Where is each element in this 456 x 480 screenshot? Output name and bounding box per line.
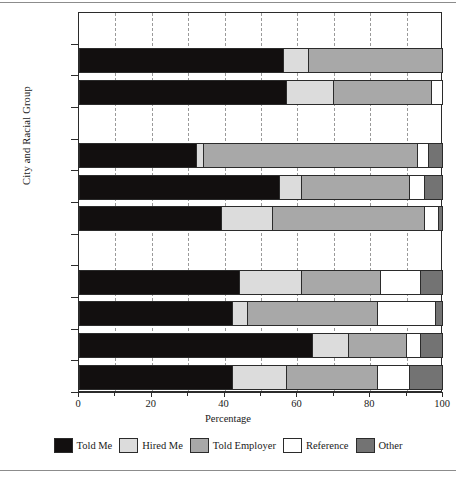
- x-tick: [296, 392, 297, 397]
- bar-segment-other[interactable]: [420, 271, 442, 294]
- bar-segment-told-employer[interactable]: [333, 81, 431, 104]
- legend-swatch: [356, 438, 375, 453]
- bar-row: [79, 48, 441, 73]
- bar-segment-other[interactable]: [428, 144, 442, 167]
- legend-label: Other: [379, 440, 403, 451]
- legend-item[interactable]: Told Me: [54, 438, 113, 453]
- bar-segment-hired-me[interactable]: [221, 207, 272, 230]
- bar-segment-told-me[interactable]: [80, 207, 221, 230]
- x-tick-label: 60: [276, 398, 316, 409]
- bar-segment-told-me[interactable]: [80, 49, 283, 72]
- legend-item[interactable]: Other: [356, 438, 403, 453]
- legend-swatch: [54, 438, 73, 453]
- x-tick-label: 20: [131, 398, 171, 409]
- bar-segment-told-me[interactable]: [80, 334, 312, 357]
- bar-row: [79, 143, 441, 168]
- bar-row: [79, 80, 441, 105]
- x-tick: [151, 392, 152, 397]
- legend-swatch: [283, 438, 302, 453]
- x-tick-label: 0: [58, 398, 98, 409]
- legend-label: Told Employer: [213, 440, 276, 451]
- bar-segment-told-employer[interactable]: [203, 144, 417, 167]
- legend-label: Reference: [306, 440, 349, 451]
- bar-segment-reference[interactable]: [377, 302, 435, 325]
- bar-segment-told-employer[interactable]: [247, 302, 377, 325]
- bar-segment-told-me[interactable]: [80, 176, 279, 199]
- y-tick: [71, 329, 79, 330]
- bar-row: [79, 301, 441, 326]
- y-axis-title: City and Racial Group: [21, 56, 32, 216]
- bottom-rule: [0, 470, 456, 471]
- bar-segment-hired-me[interactable]: [232, 302, 246, 325]
- bar-segment-told-me[interactable]: [80, 144, 196, 167]
- bar-segment-other[interactable]: [409, 366, 442, 389]
- bar-segment-reference[interactable]: [380, 271, 420, 294]
- bar-segment-told-me[interactable]: [80, 302, 232, 325]
- legend-label: Hired Me: [142, 440, 183, 451]
- bar-segment-told-me[interactable]: [80, 271, 239, 294]
- stacked-bar[interactable]: [79, 48, 443, 73]
- bar-segment-reference[interactable]: [424, 207, 438, 230]
- x-tick-minor: [406, 392, 407, 396]
- x-tick-minor: [187, 392, 188, 396]
- bar-segment-hired-me[interactable]: [239, 271, 301, 294]
- x-tick-minor: [260, 392, 261, 396]
- y-tick: [71, 297, 79, 298]
- bar-segment-told-me[interactable]: [80, 366, 232, 389]
- stacked-bar[interactable]: [79, 365, 443, 390]
- legend-item[interactable]: Told Employer: [190, 438, 276, 453]
- legend: Told MeHired MeTold EmployerReferenceOth…: [0, 438, 456, 453]
- bar-segment-other[interactable]: [420, 334, 442, 357]
- bar-row: [79, 206, 441, 231]
- bar-segment-told-employer[interactable]: [301, 271, 381, 294]
- bar-segment-other[interactable]: [435, 302, 442, 325]
- bar-segment-reference[interactable]: [377, 366, 410, 389]
- bar-row: [79, 333, 441, 358]
- stacked-bar[interactable]: [79, 143, 443, 168]
- plot-area: [78, 12, 442, 392]
- bar-segment-hired-me[interactable]: [286, 81, 333, 104]
- bar-segment-hired-me[interactable]: [312, 334, 348, 357]
- bar-segment-told-employer[interactable]: [272, 207, 424, 230]
- x-tick: [224, 392, 225, 397]
- x-tick-minor: [114, 392, 115, 396]
- bar-segment-reference[interactable]: [406, 334, 420, 357]
- bar-rows: [79, 13, 441, 391]
- bar-segment-told-employer[interactable]: [308, 49, 442, 72]
- bar-segment-reference[interactable]: [409, 176, 423, 199]
- y-tick: [71, 139, 79, 140]
- stacked-bar[interactable]: [79, 333, 443, 358]
- legend-item[interactable]: Hired Me: [119, 438, 183, 453]
- bar-segment-other[interactable]: [424, 176, 442, 199]
- figure: City and Racial Group AtlantaBlackNon-Hi…: [0, 0, 456, 480]
- legend-item[interactable]: Reference: [283, 438, 349, 453]
- bar-segment-reference[interactable]: [431, 81, 442, 104]
- bar-row: [79, 270, 441, 295]
- legend-swatch: [119, 438, 138, 453]
- bar-segment-reference[interactable]: [417, 144, 428, 167]
- x-tick-label: 100: [422, 398, 456, 409]
- y-tick: [71, 75, 79, 76]
- y-tick: [71, 170, 79, 171]
- bar-segment-hired-me[interactable]: [283, 49, 308, 72]
- top-rule: [0, 2, 456, 3]
- stacked-bar[interactable]: [79, 270, 443, 295]
- stacked-bar[interactable]: [79, 206, 443, 231]
- x-tick: [442, 392, 443, 397]
- bar-segment-hired-me[interactable]: [279, 176, 301, 199]
- stacked-bar[interactable]: [79, 175, 443, 200]
- stacked-bar[interactable]: [79, 301, 443, 326]
- bar-segment-hired-me[interactable]: [196, 144, 203, 167]
- bar-row: [79, 365, 441, 390]
- stacked-bar[interactable]: [79, 80, 443, 105]
- y-tick: [71, 107, 79, 108]
- bar-segment-told-employer[interactable]: [301, 176, 410, 199]
- bar-segment-hired-me[interactable]: [232, 366, 286, 389]
- bar-segment-other[interactable]: [438, 207, 442, 230]
- bar-segment-told-employer[interactable]: [286, 366, 377, 389]
- y-tick: [71, 360, 79, 361]
- bar-segment-told-employer[interactable]: [348, 334, 406, 357]
- y-tick: [71, 265, 79, 266]
- x-tick-minor: [333, 392, 334, 396]
- bar-segment-told-me[interactable]: [80, 81, 286, 104]
